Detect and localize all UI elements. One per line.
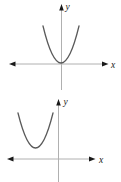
y-axis-label: y <box>63 97 69 107</box>
x-axis-left-arrow-icon <box>7 157 14 162</box>
x-axis-label: x <box>110 60 116 70</box>
two-parabola-figure: y x y x <box>0 0 121 182</box>
y-axis-up-arrow-icon <box>59 4 64 11</box>
x-axis-right-arrow-icon <box>102 62 109 67</box>
y-axis-up-arrow-icon <box>56 99 61 106</box>
parabola-curve <box>18 113 53 148</box>
x-axis-left-arrow-icon <box>9 62 16 67</box>
x-axis-label: x <box>98 155 104 165</box>
graph-bottom-parabola-shifted: y x <box>0 91 121 182</box>
graph-top-parabola-at-origin: y x <box>0 0 121 91</box>
y-axis-label: y <box>65 2 71 12</box>
x-axis-right-arrow-icon <box>89 157 96 162</box>
